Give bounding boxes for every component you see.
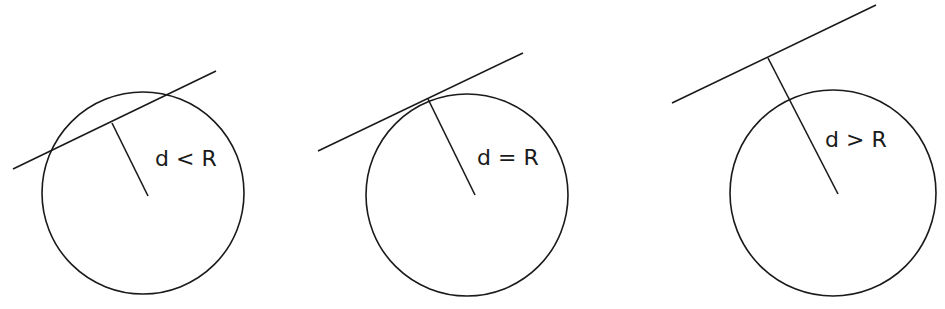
panel-tangent: d = R: [318, 53, 568, 296]
tangent-line: [318, 53, 523, 151]
distance-segment-3: [768, 58, 838, 194]
distance-segment-1: [112, 123, 148, 196]
panel-intersecting: d < R: [13, 71, 244, 294]
distance-segment-2: [428, 99, 475, 195]
circle-3: [730, 90, 936, 296]
circle-1: [42, 92, 244, 294]
label-d-equals-r: d = R: [477, 145, 539, 170]
circle-2: [366, 94, 568, 296]
external-line: [672, 5, 876, 103]
label-d-greater-than-r: d > R: [825, 127, 887, 152]
label-d-less-than-r: d < R: [155, 146, 217, 171]
panel-separate: d > R: [672, 5, 936, 296]
circle-line-relationship-diagram: d < R d = R d > R: [0, 0, 945, 309]
